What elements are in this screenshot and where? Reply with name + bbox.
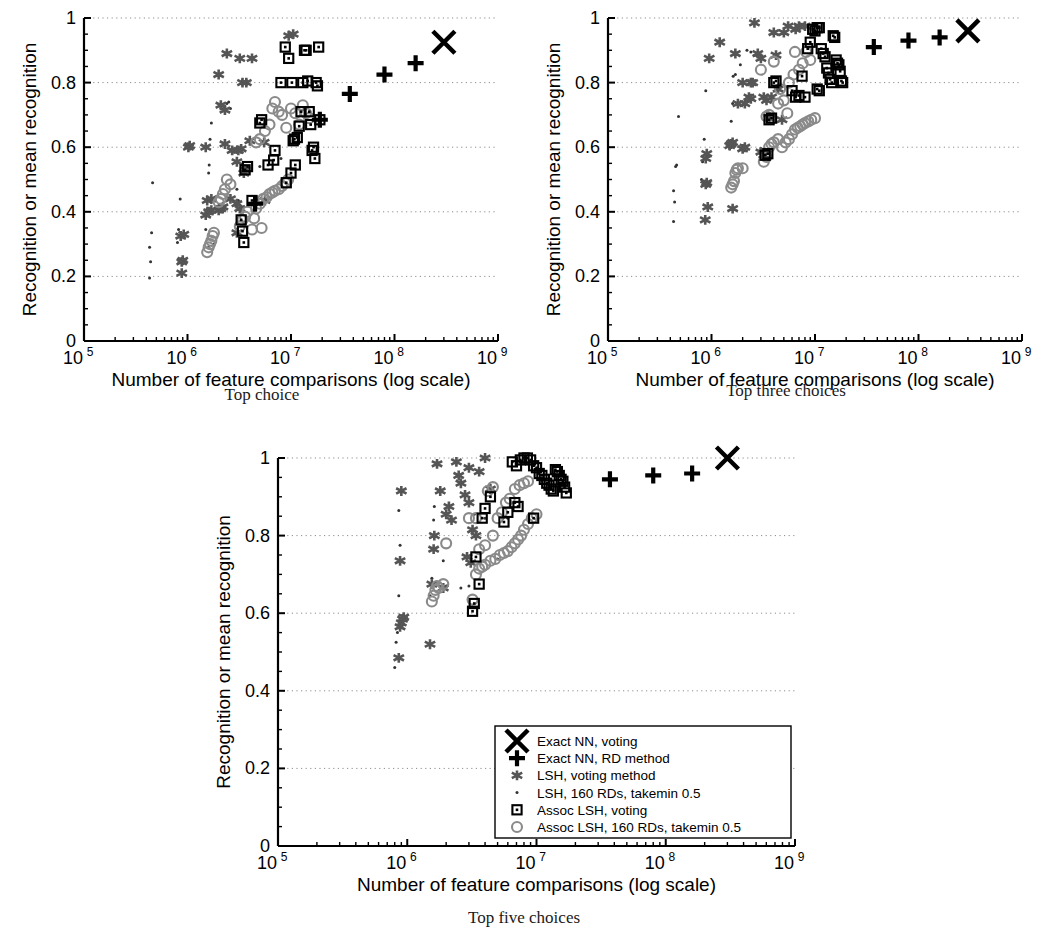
dot-data-point <box>433 505 436 508</box>
asterisk-data-point <box>733 99 743 109</box>
y-tick-label: 0.8 <box>51 73 76 93</box>
y-axis-label: Recognition or mean recognition <box>19 43 40 317</box>
svg-text:5: 5 <box>611 345 618 359</box>
dot-data-point <box>734 73 737 76</box>
asterisk-data-point <box>451 457 461 467</box>
y-tick-label: 0.8 <box>245 526 270 546</box>
dot-data-point <box>745 49 748 52</box>
circle-data-point <box>488 531 498 541</box>
x-tick-label: 107 <box>515 850 546 873</box>
circle-data-point <box>441 538 451 548</box>
dot-data-point <box>150 231 153 234</box>
bold-plus-data-point <box>408 55 424 71</box>
panel-caption-top-five: Top five choices <box>190 908 858 928</box>
square-data-point <box>281 42 290 51</box>
circle-data-point <box>281 123 291 133</box>
x-tick-label: 105 <box>587 345 618 368</box>
svg-text:7: 7 <box>818 345 825 359</box>
circle-data-point <box>247 225 257 235</box>
dot-data-point <box>432 519 435 522</box>
svg-text:10: 10 <box>386 853 406 873</box>
dot-data-point <box>151 181 154 184</box>
scatter-plot: 00.20.40.60.81105106107108109Number of f… <box>524 0 1048 400</box>
y-tick-label: 0.6 <box>575 137 600 157</box>
panel-caption-top-three: Top three choices <box>524 381 1048 401</box>
asterisk-data-point <box>396 486 406 496</box>
svg-text:8: 8 <box>397 345 404 359</box>
dot-data-point <box>176 241 179 244</box>
asterisk-data-point <box>777 115 787 125</box>
y-tick-label: 0.4 <box>51 202 76 222</box>
circle-data-point <box>769 57 779 67</box>
y-axis-label: Recognition or mean recognition <box>213 515 234 789</box>
svg-text:10: 10 <box>270 348 290 368</box>
svg-text:10: 10 <box>166 348 186 368</box>
plot-panel-top-five: 00.20.40.60.81105106107108109Number of f… <box>190 430 858 910</box>
dot-data-point <box>703 138 706 141</box>
svg-text:10: 10 <box>897 348 917 368</box>
dot-data-point <box>258 165 261 168</box>
dot-data-point <box>397 594 400 597</box>
circle-data-point <box>790 47 800 57</box>
square-data-point <box>284 54 293 63</box>
bold-plus-data-point <box>866 39 882 55</box>
y-tick-label: 0.2 <box>575 266 600 286</box>
svg-text:6: 6 <box>714 345 721 359</box>
square-data-point <box>480 504 489 513</box>
svg-text:10: 10 <box>373 348 393 368</box>
y-tick-label: 0.2 <box>51 266 76 286</box>
asterisk-data-point <box>446 515 456 525</box>
scatter-plot: 00.20.40.60.81105106107108109Number of f… <box>0 0 524 400</box>
dot-data-point <box>672 220 675 223</box>
dot-data-point <box>442 559 445 562</box>
bold-x-data-point <box>433 31 455 53</box>
dot-data-point <box>749 50 752 53</box>
svg-text:10: 10 <box>794 348 814 368</box>
asterisk-data-point <box>247 53 257 63</box>
figure-container: 00.20.40.60.81105106107108109Number of f… <box>0 0 1048 949</box>
x-tick-label: 109 <box>774 850 805 873</box>
plot-panel-top-choice: 00.20.40.60.81105106107108109Number of f… <box>0 0 524 400</box>
asterisk-data-point <box>727 204 737 214</box>
dot-data-point <box>675 163 678 166</box>
asterisk-data-point <box>474 467 484 477</box>
bold-plus-data-point <box>602 471 618 487</box>
circle-data-point <box>756 65 766 75</box>
legend-label: Exact NN, RD method <box>537 751 670 766</box>
dot-data-point <box>227 100 230 103</box>
x-tick-label: 107 <box>794 345 825 368</box>
dot-data-point <box>210 121 213 124</box>
dot-data-point <box>672 189 675 192</box>
asterisk-data-point <box>464 463 474 473</box>
x-tick-label: 105 <box>257 850 288 873</box>
svg-text:10: 10 <box>587 348 607 368</box>
dot-data-point <box>516 791 519 794</box>
svg-text:10: 10 <box>63 348 83 368</box>
series-asterisk <box>700 18 810 225</box>
square-data-point <box>806 38 815 47</box>
y-axis-label: Recognition or mean recognition <box>543 43 564 317</box>
series-bold-plus <box>602 466 700 488</box>
asterisk-data-point <box>700 215 710 225</box>
circle-data-point <box>464 513 474 523</box>
svg-text:10: 10 <box>257 853 277 873</box>
square-data-point <box>475 580 484 589</box>
dot-data-point <box>459 586 462 589</box>
x-axis-label: Number of feature comparisons (log scale… <box>357 874 716 895</box>
svg-text:10: 10 <box>645 853 665 873</box>
dot-data-point <box>177 228 180 231</box>
dot-data-point <box>396 631 399 634</box>
svg-text:10: 10 <box>690 348 710 368</box>
dot-data-point <box>235 188 238 191</box>
bold-plus-data-point <box>645 467 661 483</box>
asterisk-data-point <box>453 471 463 481</box>
asterisk-data-point <box>425 639 435 649</box>
legend-label: Assoc LSH, 160 RDs, takemin 0.5 <box>537 820 741 835</box>
y-tick-label: 1 <box>260 448 270 468</box>
chart-legend: Exact NN, votingExact NN, RD methodLSH, … <box>495 726 791 838</box>
asterisk-data-point <box>395 556 405 566</box>
bold-plus-data-point <box>932 29 948 45</box>
x-tick-label: 109 <box>477 345 508 368</box>
dot-data-point <box>395 641 398 644</box>
legend-label: Assoc LSH, voting <box>537 803 647 818</box>
